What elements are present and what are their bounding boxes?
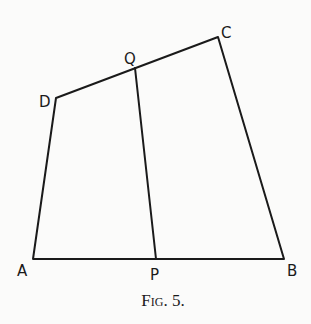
figure-caption: Fig. 5.: [141, 291, 184, 310]
label-c: C: [221, 24, 231, 42]
segment-pq: [135, 68, 156, 259]
quadrilateral-diagram: A P B D Q C Fig. 5.: [0, 0, 311, 324]
label-a: A: [17, 262, 28, 280]
label-d: D: [39, 93, 51, 111]
quadrilateral-abcd: [33, 37, 284, 259]
label-p: P: [150, 266, 159, 284]
label-q: Q: [124, 50, 136, 68]
label-b: B: [287, 262, 297, 280]
figure-5: A P B D Q C Fig. 5.: [0, 0, 311, 324]
